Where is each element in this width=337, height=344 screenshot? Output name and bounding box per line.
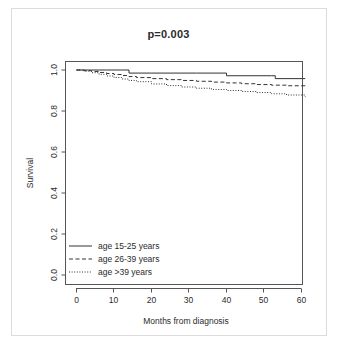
x-axis: 0 10 20 30 40 50 60 Months from diagnosi… — [74, 289, 306, 327]
curve-age-over-39 — [77, 70, 306, 97]
y-tick-label-0.4: 0.4 — [49, 187, 59, 199]
x-tick-label-40: 40 — [222, 295, 232, 305]
y-tick-label-0.2: 0.2 — [49, 228, 59, 240]
legend-label-age-15-25: age 15-25 years — [98, 241, 159, 251]
curve-age-15-25 — [77, 70, 306, 79]
x-tick-label-30: 30 — [184, 295, 194, 305]
survival-curves — [77, 70, 306, 97]
legend-label-age-26-39: age 26-39 years — [98, 254, 159, 264]
y-tick-label-0.0: 0.0 — [49, 269, 59, 281]
y-tick-label-0.8: 0.8 — [49, 105, 59, 117]
x-axis-title: Months from diagnosis — [143, 316, 229, 326]
x-tick-label-10: 10 — [109, 295, 119, 305]
y-tick-label-0.6: 0.6 — [49, 146, 59, 158]
y-axis-title: Survival — [25, 158, 35, 188]
curve-age-26-39 — [77, 70, 306, 87]
x-tick-label-60: 60 — [297, 295, 307, 305]
y-tick-label-1.0: 1.0 — [49, 64, 59, 76]
plot-panel-box — [66, 62, 303, 285]
kaplan-meier-chart: 1.0 0.8 0.6 0.4 0.2 0.0 Survival 0 10 20… — [0, 0, 337, 344]
legend: age 15-25 years age 26-39 years age >39 … — [69, 241, 159, 277]
survival-plot-figure: p=0.003 1.0 0.8 0.6 0.4 0.2 0.0 Survival — [0, 0, 337, 344]
x-tick-label-0: 0 — [74, 295, 79, 305]
y-axis: 1.0 0.8 0.6 0.4 0.2 0.0 Survival — [25, 64, 66, 281]
legend-label-age-over-39: age >39 years — [98, 267, 152, 277]
x-tick-label-20: 20 — [147, 295, 157, 305]
x-tick-label-50: 50 — [259, 295, 269, 305]
